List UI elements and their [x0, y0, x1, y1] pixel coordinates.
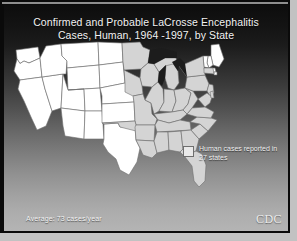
title-line-1: Confirmed and Probable LaCrosse Encephal… [33, 16, 259, 28]
map-legend: Human cases reported in 27 states [183, 145, 290, 162]
us-map-svg [9, 41, 234, 201]
legend-label: Human cases reported in 27 states [199, 145, 277, 162]
screenshot-page: Confirmed and Probable LaCrosse Encephal… [0, 0, 297, 241]
state-arkansas [135, 125, 155, 141]
state-new-mexico [84, 111, 104, 139]
us-choropleth-map [9, 41, 234, 201]
legend-label-line-1: Human cases reported in [199, 145, 277, 152]
page-bottom-strip [0, 233, 297, 241]
slide-canvas: Confirmed and Probable LaCrosse Encephal… [4, 5, 288, 231]
state-connecticut [204, 68, 214, 74]
state-alabama [168, 131, 183, 152]
legend-label-line-2: 27 states [199, 154, 277, 163]
page-right-strip [290, 0, 297, 233]
state-kansas [102, 102, 135, 123]
state-mississippi [154, 132, 169, 153]
state-iowa [124, 70, 143, 96]
state-rhode-island [214, 72, 217, 75]
state-wyoming [67, 65, 100, 90]
state-delaware [210, 91, 214, 98]
state-arizona [61, 108, 85, 139]
presentation-slide: Confirmed and Probable LaCrosse Encephal… [0, 0, 290, 233]
slide-top-highlight [2, 2, 288, 4]
state-pennsylvania [185, 75, 209, 91]
cdc-logo: CDC [256, 212, 282, 227]
legend-swatch-reported [183, 146, 194, 157]
slide-title: Confirmed and Probable LaCrosse Encephal… [4, 16, 288, 42]
state-tennessee [155, 120, 191, 132]
average-footnote: Average: 73 cases/year [26, 215, 102, 222]
state-north-dakota [98, 42, 123, 65]
state-maryland [198, 93, 212, 107]
